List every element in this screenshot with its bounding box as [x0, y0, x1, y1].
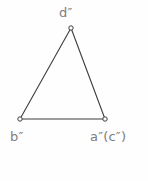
- triangle-vertices: [18, 26, 107, 121]
- diagram-canvas: d″ b″ a″(c″): [0, 0, 148, 181]
- vertex-label-d: d″: [59, 6, 73, 19]
- vertex-marker-ac: [103, 117, 107, 121]
- edge-d-to-ac: [71, 28, 105, 119]
- edge-b-to-d: [20, 28, 71, 119]
- triangle-edges: [20, 28, 105, 119]
- vertex-marker-b: [18, 117, 22, 121]
- vertex-label-a-c: a″(c″): [90, 130, 126, 143]
- vertex-label-b: b″: [10, 130, 24, 143]
- vertex-marker-d: [69, 26, 73, 30]
- triangle-diagram-svg: [0, 0, 148, 181]
